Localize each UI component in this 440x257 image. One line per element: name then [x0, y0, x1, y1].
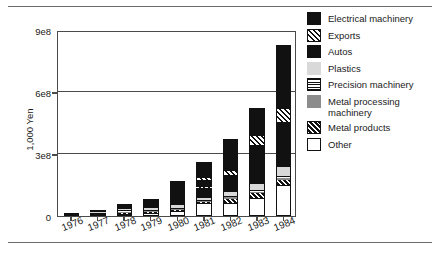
x-tick-mark	[123, 217, 125, 221]
x-tick-mark	[256, 217, 258, 221]
y-tick-label: 6e8	[11, 88, 51, 99]
legend-label: Metal products	[328, 121, 390, 133]
bar-segment	[276, 45, 291, 109]
legend-item[interactable]: Precision machinery	[307, 78, 435, 91]
bar-segment	[196, 203, 211, 216]
legend-label: Other	[328, 138, 352, 150]
bar-segment	[223, 139, 238, 170]
bar-segment	[249, 198, 264, 216]
x-tick-mark	[70, 217, 72, 221]
legend-swatch-icon	[307, 121, 321, 134]
legend-label: Plastics	[328, 62, 361, 74]
legend-label: Precision machinery	[328, 78, 414, 90]
bar-segment	[276, 185, 291, 216]
bar-segment	[223, 203, 238, 216]
legend-swatch-icon	[307, 95, 321, 108]
legend-label: Metal processing machinery	[328, 95, 435, 118]
x-tick-mark	[150, 217, 152, 221]
bar-1979[interactable]	[143, 199, 158, 216]
x-tick-mark	[177, 217, 179, 221]
legend-label: Electrical machinery	[328, 12, 413, 24]
bar-1983[interactable]	[249, 108, 264, 216]
bar-segment	[276, 167, 291, 175]
legend-item[interactable]: Exports	[307, 29, 435, 42]
bar-segment	[196, 162, 211, 178]
legend-item[interactable]: Plastics	[307, 62, 435, 75]
legend-swatch-icon	[307, 138, 321, 151]
bar-segment	[196, 180, 211, 198]
bar-segment	[249, 108, 264, 137]
bar-1981[interactable]	[196, 162, 211, 216]
bar-segment	[276, 122, 291, 167]
bar-inner-dashed-divider	[196, 187, 211, 189]
bar-1984[interactable]	[276, 45, 291, 216]
bar-group	[58, 32, 295, 216]
bar-1982[interactable]	[223, 139, 238, 216]
y-tick-label: 3e8	[11, 150, 51, 161]
y-tick-label: 0	[11, 212, 51, 223]
legend-item[interactable]: Electrical machinery	[307, 12, 435, 25]
chart-legend: Electrical machineryExportsAutosPlastics…	[307, 12, 435, 154]
bar-1978[interactable]	[117, 204, 132, 216]
x-tick-mark	[203, 217, 205, 221]
plot-area	[57, 31, 296, 217]
bar-segment	[223, 175, 238, 192]
chart-figure: 1,000 Yen 9e86e83e80 1976197719781979198…	[0, 0, 440, 257]
bar-segment	[143, 199, 158, 206]
bar-1980[interactable]	[170, 181, 185, 216]
legend-swatch-icon	[307, 12, 321, 25]
bar-segment	[249, 145, 264, 184]
y-tick-label: 9e8	[11, 26, 51, 37]
legend-item[interactable]: Metal products	[307, 121, 435, 134]
legend-swatch-icon	[307, 29, 321, 42]
bar-segment	[170, 181, 185, 201]
legend-label: Exports	[328, 29, 360, 41]
bar-segment	[276, 109, 291, 121]
legend-swatch-icon	[307, 45, 321, 58]
legend-swatch-icon	[307, 78, 321, 91]
x-tick-mark	[283, 217, 285, 221]
legend-label: Autos	[328, 45, 352, 57]
x-tick-mark	[230, 217, 232, 221]
legend-item[interactable]: Metal processing machinery	[307, 95, 435, 118]
legend-item[interactable]: Autos	[307, 45, 435, 58]
legend-swatch-icon	[307, 62, 321, 75]
bar-segment	[249, 136, 264, 145]
x-tick-mark	[97, 217, 99, 221]
legend-item[interactable]: Other	[307, 138, 435, 151]
